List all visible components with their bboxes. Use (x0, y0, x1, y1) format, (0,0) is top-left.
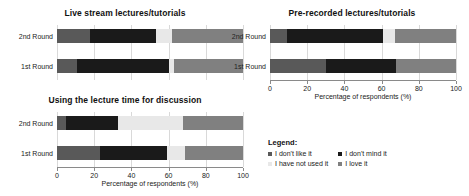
chart-panel-live-stream: Live stream lectures/tutorials 2nd Round… (0, 8, 250, 88)
legend-label: I don't mind it (345, 150, 386, 157)
bar-segment (383, 29, 394, 43)
gridline (456, 25, 457, 80)
bar-segment (270, 29, 287, 43)
bar-segment (57, 116, 66, 130)
x-axis-label-pre-recorded: Percentage of respondents (%) (270, 93, 456, 100)
tick-label: 80 (202, 172, 210, 179)
bar-segment (185, 146, 243, 160)
legend-swatch-icon (338, 152, 342, 156)
tick-label: 60 (378, 85, 386, 92)
chart-panel-pre-recorded: Pre-recorded lectures/tutorials 2nd Roun… (235, 8, 469, 108)
bar-segment (57, 59, 77, 73)
legend-item[interactable]: I love it (338, 160, 386, 167)
tick-label: 0 (268, 85, 272, 92)
bar-row-1st-round-discussion (57, 146, 243, 160)
legend-swatch-icon (268, 152, 272, 156)
bar-segment (326, 59, 397, 73)
bar-row-2nd-round-pre-recorded (270, 29, 456, 43)
tick-label: 80 (415, 85, 423, 92)
bar-segment (57, 146, 100, 160)
tick-mark (270, 81, 271, 84)
tick-mark (456, 81, 457, 84)
bar-segment (100, 146, 167, 160)
chart-title-live-stream: Live stream lectures/tutorials (0, 8, 250, 18)
tick-label: 0 (55, 172, 59, 179)
tick-label: 40 (127, 172, 135, 179)
x-axis-label-discussion: Percentage of respondents (%) (57, 180, 243, 187)
tick-label: 20 (303, 85, 311, 92)
chart-title-discussion: Using the lecture time for discussion (0, 95, 250, 105)
bar-row-1st-round-pre-recorded (270, 59, 456, 73)
tick-mark (169, 168, 170, 171)
tick-mark (382, 81, 383, 84)
tick-label: 100 (450, 85, 462, 92)
bar-segment (167, 146, 186, 160)
bar-segment (66, 116, 118, 130)
legend-label: I don't like it (275, 150, 312, 157)
bar-segment (270, 59, 326, 73)
plot-pre-recorded: 2nd Round 1st Round 020406080100 Percent… (270, 25, 456, 80)
bar-segment (90, 29, 155, 43)
legend: Legend: I don't like itI don't mind itI … (268, 138, 387, 167)
tick-label: 20 (90, 172, 98, 179)
x-ticks-discussion: 020406080100 (57, 168, 243, 178)
tick-label: 60 (165, 172, 173, 179)
legend-swatch-icon (268, 162, 272, 166)
legend-title: Legend: (268, 138, 387, 147)
legend-items: I don't like itI don't mind itI have not… (268, 150, 387, 167)
plot-area-pre-recorded: 2nd Round 1st Round 020406080100 Percent… (270, 25, 456, 95)
row-label-1st-round-live-stream: 1st Round (21, 63, 57, 70)
row-label-2nd-round-discussion: 2nd Round (19, 120, 57, 127)
bar-segment (118, 116, 183, 130)
legend-swatch-icon (338, 162, 342, 166)
tick-mark (419, 81, 420, 84)
chart-title-pre-recorded: Pre-recorded lectures/tutorials (235, 8, 469, 18)
bar-segment (156, 29, 173, 43)
bar-row-2nd-round-live-stream (57, 29, 243, 43)
row-label-1st-round-discussion: 1st Round (21, 150, 57, 157)
row-label-2nd-round-live-stream: 2nd Round (19, 33, 57, 40)
legend-item[interactable]: I don't like it (268, 150, 328, 157)
bar-segment (57, 29, 90, 43)
legend-item[interactable]: I have not used it (268, 160, 328, 167)
plot-area-discussion: 2nd Round 1st Round 020406080100 Percent… (57, 112, 243, 182)
tick-mark (206, 168, 207, 171)
plot-area-live-stream: 2nd Round 1st Round (57, 25, 243, 80)
tick-label: 100 (237, 172, 249, 179)
bar-segment (287, 29, 384, 43)
tick-mark (94, 168, 95, 171)
bar-segment (77, 59, 168, 73)
row-label-2nd-round-pre-recorded: 2nd Round (232, 33, 270, 40)
plot-live-stream: 2nd Round 1st Round (57, 25, 243, 80)
legend-label: I have not used it (275, 160, 328, 167)
bar-segment (183, 116, 243, 130)
chart-panel-discussion: Using the lecture time for discussion 2n… (0, 95, 250, 196)
tick-label: 40 (340, 85, 348, 92)
tick-mark (243, 168, 244, 171)
plot-discussion: 2nd Round 1st Round 020406080100 Percent… (57, 112, 243, 167)
bar-segment (174, 59, 243, 73)
row-label-1st-round-pre-recorded: 1st Round (234, 63, 270, 70)
x-ticks-pre-recorded: 020406080100 (270, 81, 456, 91)
legend-label: I love it (345, 160, 367, 167)
bar-segment (396, 59, 456, 73)
tick-mark (344, 81, 345, 84)
tick-mark (307, 81, 308, 84)
legend-item[interactable]: I don't mind it (338, 150, 386, 157)
bar-segment (395, 29, 456, 43)
bar-row-2nd-round-discussion (57, 116, 243, 130)
tick-mark (131, 168, 132, 171)
tick-mark (57, 168, 58, 171)
bar-row-1st-round-live-stream (57, 59, 243, 73)
gridline (243, 112, 244, 167)
